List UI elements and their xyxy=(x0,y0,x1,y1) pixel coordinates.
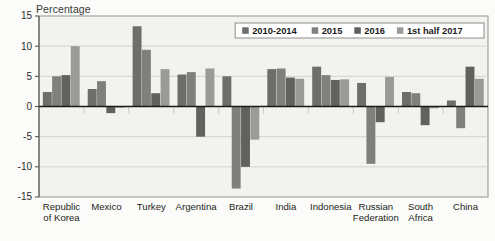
legend-label: 1st half 2017 xyxy=(407,26,463,36)
x-tick-label: Russian xyxy=(358,201,393,212)
x-tick-label: Turkey xyxy=(137,201,166,212)
x-tick-label: Indonesia xyxy=(310,201,352,212)
bar xyxy=(241,107,250,167)
bar xyxy=(475,79,484,107)
bar xyxy=(421,107,430,126)
bar xyxy=(205,68,214,106)
y-tick-label: -10 xyxy=(18,161,33,172)
x-tick-label: of Korea xyxy=(43,212,80,223)
x-tick-label: Republic xyxy=(43,201,81,212)
bar xyxy=(43,92,52,106)
bar xyxy=(286,78,295,107)
y-tick-label: 15 xyxy=(21,10,33,21)
bar xyxy=(250,107,259,140)
x-tick-label: Africa xyxy=(408,212,433,223)
bar xyxy=(71,46,80,106)
bar xyxy=(456,107,465,129)
x-tick-label: China xyxy=(453,201,479,212)
bar xyxy=(357,83,366,107)
legend-label: 2015 xyxy=(322,26,343,36)
bar xyxy=(466,67,475,107)
bar xyxy=(232,107,241,189)
bar xyxy=(61,75,70,106)
bar xyxy=(97,81,106,106)
bar xyxy=(277,68,286,106)
bar xyxy=(340,79,349,106)
y-axis-tick-labels: 151050-5-10-15 xyxy=(18,10,33,202)
bar xyxy=(322,75,331,106)
bar xyxy=(402,92,411,106)
legend-label: 2010-2014 xyxy=(252,26,297,36)
x-tick-label: Federation xyxy=(353,212,399,223)
bar xyxy=(88,89,97,107)
bar xyxy=(178,75,187,107)
x-tick-label: South xyxy=(408,201,433,212)
bar xyxy=(222,76,231,106)
bar xyxy=(312,67,321,107)
bar xyxy=(267,69,276,106)
bar xyxy=(376,107,385,123)
bar xyxy=(151,93,160,106)
legend-swatch xyxy=(354,27,361,34)
bar xyxy=(295,79,304,107)
bar xyxy=(366,107,375,164)
chart-legend: 2010-2014201520161st half 2017 xyxy=(235,23,484,38)
bar xyxy=(142,50,151,107)
y-tick-label: -5 xyxy=(23,131,32,142)
chart-canvas: 151050-5-10-15 Republicof KoreaMexicoTur… xyxy=(0,0,495,241)
y-tick-label: -15 xyxy=(18,191,33,202)
bar xyxy=(52,76,61,106)
bar xyxy=(187,72,196,106)
x-tick-label: Argentina xyxy=(176,201,218,212)
y-axis xyxy=(35,16,39,197)
legend-swatch xyxy=(242,27,249,34)
x-tick-label: India xyxy=(275,201,296,212)
x-tick-label: Brazil xyxy=(229,201,253,212)
bar xyxy=(106,107,115,114)
bar xyxy=(385,77,394,107)
y-tick-label: 5 xyxy=(26,71,32,82)
legend-swatch xyxy=(312,27,319,34)
bar xyxy=(331,80,340,107)
bar xyxy=(161,69,170,106)
x-axis-tick-labels: Republicof KoreaMexicoTurkeyArgentinaBra… xyxy=(43,201,479,223)
legend-label: 2016 xyxy=(364,26,385,36)
percentage-bar-chart: Percentage 151050-5-10-15 Republicof Kor… xyxy=(0,0,495,241)
bar xyxy=(196,107,205,137)
bar xyxy=(411,93,420,106)
legend-swatch xyxy=(397,27,404,34)
bar xyxy=(447,100,456,106)
y-tick-label: 10 xyxy=(21,41,33,52)
x-tick-label: Mexico xyxy=(91,201,121,212)
y-tick-label: 0 xyxy=(26,101,32,112)
bar xyxy=(133,26,142,106)
